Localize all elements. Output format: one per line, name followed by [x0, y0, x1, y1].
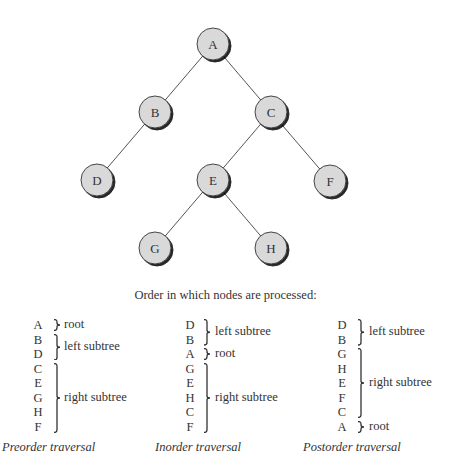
- group-label: root: [369, 419, 389, 433]
- sequence-item: E: [335, 376, 349, 390]
- sequence-item: H: [31, 405, 45, 419]
- sequence-item: B: [335, 333, 349, 347]
- group-label: left subtree: [64, 339, 120, 353]
- sequence-item: F: [335, 391, 349, 405]
- node-A: A: [197, 28, 229, 60]
- traversal-title: Postorder traversal: [303, 440, 401, 455]
- group-label: left subtree: [215, 324, 271, 338]
- group-label: root: [64, 317, 84, 331]
- brace-icon: [357, 348, 367, 418]
- sequence-item: C: [31, 362, 45, 376]
- group-label: right subtree: [215, 390, 278, 404]
- sequence-item: H: [183, 391, 197, 405]
- brace-icon: [53, 334, 63, 361]
- sequence-item: G: [183, 362, 197, 376]
- node-label: A: [208, 37, 218, 52]
- sequence-item: B: [183, 333, 197, 347]
- group-label: root: [215, 346, 235, 360]
- sequence-item: D: [31, 347, 45, 361]
- sequence-item: A: [183, 347, 197, 361]
- sequence-item: F: [183, 420, 197, 434]
- sequence-item: G: [335, 347, 349, 361]
- sequence-item: D: [335, 318, 349, 332]
- node-label: G: [150, 241, 159, 256]
- node-C: C: [255, 96, 287, 128]
- node-B: B: [139, 96, 171, 128]
- node-G: G: [139, 232, 171, 264]
- sequence-item: G: [31, 391, 45, 405]
- brace-icon: [53, 363, 63, 433]
- brace-icon: [357, 421, 367, 433]
- tree-nodes: ABCDEFGH: [81, 28, 346, 264]
- sequence-item: B: [31, 333, 45, 347]
- sequence-item: C: [183, 405, 197, 419]
- node-D: D: [81, 164, 113, 196]
- node-label: H: [266, 241, 275, 256]
- node-H: H: [255, 232, 287, 264]
- node-label: D: [92, 173, 101, 188]
- group-label: right subtree: [64, 390, 127, 404]
- node-label: F: [326, 174, 333, 189]
- sequence-item: E: [31, 376, 45, 390]
- brace-icon: [357, 319, 367, 346]
- brace-icon: [203, 363, 213, 433]
- sequence-item: E: [183, 376, 197, 390]
- sequence-item: A: [31, 318, 45, 332]
- node-E: E: [197, 164, 229, 196]
- group-label: left subtree: [369, 324, 425, 338]
- tree-edges: [97, 44, 330, 248]
- sequence-item: D: [183, 318, 197, 332]
- traversal-title: Preorder traversal: [2, 440, 95, 455]
- node-F: F: [314, 165, 346, 197]
- traversal-caption: Order in which nodes are processed:: [0, 288, 451, 303]
- binary-tree-diagram: ABCDEFGH: [0, 0, 451, 280]
- sequence-item: F: [31, 420, 45, 434]
- group-label: right subtree: [369, 375, 432, 389]
- node-label: C: [267, 105, 276, 120]
- node-label: E: [209, 173, 217, 188]
- traversal-title: Inorder traversal: [155, 440, 241, 455]
- brace-icon: [203, 348, 213, 360]
- sequence-item: A: [335, 420, 349, 434]
- sequence-item: H: [335, 362, 349, 376]
- brace-icon: [53, 319, 63, 331]
- sequence-item: C: [335, 405, 349, 419]
- brace-icon: [203, 319, 213, 346]
- node-label: B: [151, 105, 160, 120]
